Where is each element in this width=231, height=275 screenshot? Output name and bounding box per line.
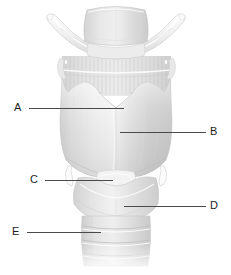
leader-line-b (120, 132, 206, 133)
label-d: D (210, 200, 218, 211)
epiglottis-group (84, 7, 148, 46)
figure-canvas: A B C D E (0, 0, 231, 275)
trachea-group (76, 216, 156, 275)
label-a: A (14, 102, 21, 113)
label-b: B (210, 126, 217, 137)
larynx-illustration (0, 0, 231, 275)
leader-line-c (45, 180, 113, 181)
label-c: C (30, 174, 38, 185)
leader-line-a (29, 108, 124, 109)
leader-line-e (27, 232, 101, 233)
leader-line-d (124, 206, 206, 207)
label-e: E (12, 226, 19, 237)
